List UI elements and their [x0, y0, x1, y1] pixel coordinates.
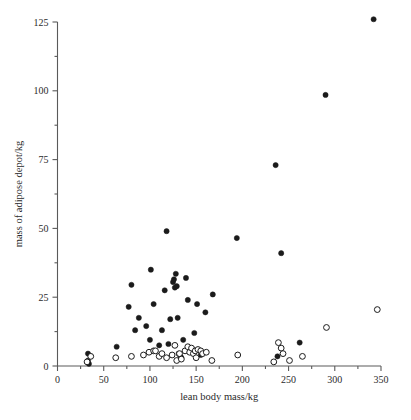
data-point-open — [193, 355, 199, 361]
x-tick-label: 200 — [235, 374, 250, 385]
data-point-filled — [168, 317, 173, 322]
series-open — [84, 307, 380, 365]
data-point-filled — [126, 304, 131, 309]
data-point-filled — [210, 292, 215, 297]
data-point-open — [300, 353, 306, 359]
data-point-filled — [136, 315, 141, 320]
data-point-open — [287, 358, 293, 364]
data-point-open — [129, 353, 135, 359]
data-point-open — [235, 352, 241, 358]
data-point-open — [169, 352, 175, 358]
data-point-filled — [159, 328, 164, 333]
x-axis-title: lean body mass/kg — [180, 391, 259, 402]
x-tick-label: 250 — [281, 374, 296, 385]
data-point-filled — [192, 330, 197, 335]
data-point-open — [172, 342, 178, 348]
data-point-filled — [275, 354, 280, 359]
data-point-open — [278, 345, 284, 351]
data-point-filled — [173, 271, 178, 276]
data-point-filled — [183, 275, 188, 280]
data-point-filled — [171, 277, 176, 282]
y-tick-label: 75 — [39, 154, 49, 165]
data-point-filled — [323, 92, 328, 97]
data-point-open — [276, 340, 282, 346]
data-point-filled — [175, 315, 180, 320]
y-tick-label: 125 — [34, 17, 49, 28]
data-point-filled — [297, 340, 302, 345]
data-point-filled — [279, 251, 284, 256]
data-point-filled — [157, 343, 162, 348]
x-tick-label: 0 — [55, 374, 60, 385]
data-point-open — [141, 352, 147, 358]
data-point-open — [324, 325, 330, 331]
data-point-filled — [203, 310, 208, 315]
x-tick-label: 350 — [374, 374, 389, 385]
data-point-filled — [147, 337, 152, 342]
data-point-filled — [133, 328, 138, 333]
data-point-open — [374, 307, 380, 313]
data-point-open — [178, 356, 184, 362]
scatter-plot-figure: 0501001502002503003500255075100125lean b… — [0, 0, 411, 420]
scatter-plot-canvas: 0501001502002503003500255075100125lean b… — [0, 0, 411, 420]
data-point-open — [203, 349, 209, 355]
data-point-filled — [174, 284, 179, 289]
data-point-open — [177, 351, 183, 357]
data-point-open — [209, 358, 215, 364]
axes-group: 0501001502002503003500255075100125lean b… — [13, 17, 389, 403]
data-point-filled — [371, 17, 376, 22]
data-point-filled — [148, 267, 153, 272]
data-point-open — [113, 355, 119, 361]
data-point-filled — [164, 229, 169, 234]
x-tick-label: 100 — [142, 374, 157, 385]
data-point-filled — [166, 341, 171, 346]
data-point-open — [164, 355, 170, 361]
series-filled — [85, 17, 376, 367]
data-point-filled — [194, 301, 199, 306]
y-tick-label: 25 — [39, 292, 49, 303]
data-point-open — [280, 351, 286, 357]
data-point-open — [153, 348, 159, 354]
y-tick-label: 100 — [34, 85, 49, 96]
y-axis-title: mass of adipose depot/kg — [13, 140, 24, 247]
data-point-filled — [129, 282, 134, 287]
data-point-open — [84, 359, 90, 365]
x-tick-label: 50 — [99, 374, 109, 385]
y-tick-label: 0 — [44, 361, 49, 372]
axis-spine — [58, 22, 382, 366]
data-point-filled — [162, 288, 167, 293]
y-tick-label: 50 — [39, 223, 49, 234]
data-point-open — [271, 359, 277, 365]
data-point-filled — [151, 301, 156, 306]
data-point-filled — [273, 163, 278, 168]
x-tick-label: 300 — [327, 374, 342, 385]
data-point-filled — [185, 297, 190, 302]
data-point-filled — [144, 324, 149, 329]
data-point-open — [88, 353, 94, 359]
x-tick-label: 150 — [189, 374, 204, 385]
data-point-filled — [114, 344, 119, 349]
data-point-filled — [181, 337, 186, 342]
data-points-group — [84, 17, 380, 367]
data-point-filled — [234, 235, 239, 240]
